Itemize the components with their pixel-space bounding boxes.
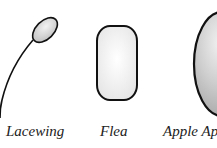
lacewing-egg — [0, 13, 62, 118]
flea-egg — [97, 26, 137, 100]
label-flea: Flea — [100, 123, 128, 140]
label-apple-aphid: Apple Ap — [163, 123, 217, 140]
lacewing-stalk — [0, 40, 33, 118]
apple-aphid-egg — [194, 12, 217, 116]
label-lacewing: Lacewing — [6, 123, 64, 140]
lacewing-egg-body — [28, 13, 62, 47]
